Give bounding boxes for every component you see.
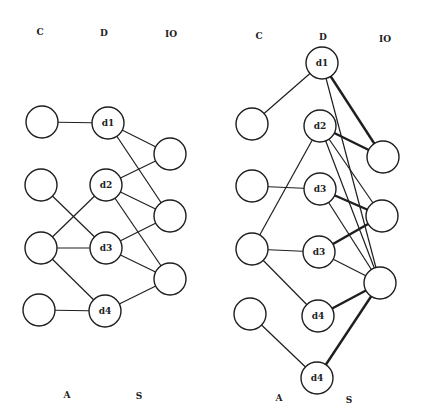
node-label: d3	[314, 184, 327, 194]
column-label-c: C	[255, 31, 262, 41]
node-io3	[154, 263, 186, 295]
node-io3	[364, 267, 396, 299]
column-label-io: IO	[379, 34, 391, 44]
node-circle	[154, 263, 186, 295]
node-c4	[23, 294, 55, 326]
node-circle	[236, 233, 268, 265]
node-c1	[236, 108, 268, 140]
node-circle	[366, 200, 398, 232]
node-c3	[25, 232, 57, 264]
bottom-label-a: A	[275, 393, 284, 403]
node-io1	[154, 138, 186, 170]
node-d2: d2	[90, 169, 122, 201]
node-circle	[364, 267, 396, 299]
node-d4: d4	[89, 295, 121, 327]
node-label: d2	[314, 121, 327, 131]
bottom-label-s: S	[136, 391, 143, 401]
node-io2	[366, 200, 398, 232]
node-d3: d3	[90, 232, 122, 264]
node-circle	[367, 141, 399, 173]
node-circle	[154, 138, 186, 170]
node-label: d4	[312, 311, 325, 321]
bottom-label-s: S	[346, 395, 353, 405]
node-circle	[236, 170, 268, 202]
node-d3a: d3	[304, 173, 336, 205]
network-diagram-right: d1d2d3d3d4d4 CDIOAS	[234, 31, 399, 405]
column-label-c: C	[36, 27, 43, 37]
diagram-canvas: d1d2d3d4 CDIOAS d1d2d3d3d4d4 CDIOAS	[0, 0, 425, 420]
network-diagram-left: d1d2d3d4 CDIOAS	[23, 27, 186, 401]
edge-layer	[39, 122, 170, 311]
node-circle	[236, 108, 268, 140]
node-d1: d1	[306, 47, 338, 79]
column-label-d: D	[319, 32, 327, 42]
node-label: d3	[313, 247, 326, 257]
node-c2	[236, 170, 268, 202]
node-d2: d2	[304, 110, 336, 142]
node-circle	[234, 298, 266, 330]
node-d3b: d3	[303, 236, 335, 268]
node-circle	[25, 232, 57, 264]
node-layer: d1d2d3d4	[23, 106, 186, 327]
node-io1	[367, 141, 399, 173]
node-label: d1	[102, 118, 115, 128]
node-label: d4	[99, 306, 112, 316]
node-c4	[234, 298, 266, 330]
node-d1: d1	[92, 107, 124, 139]
node-circle	[154, 200, 186, 232]
node-c3	[236, 233, 268, 265]
node-d4b: d4	[301, 362, 333, 394]
node-io2	[154, 200, 186, 232]
node-circle	[23, 294, 55, 326]
node-layer: d1d2d3d3d4d4	[234, 47, 399, 394]
node-label: d1	[316, 58, 329, 68]
edge-d4b-io3	[317, 283, 380, 378]
column-label-d: D	[100, 28, 108, 38]
bottom-label-a: A	[63, 390, 72, 400]
node-label: d4	[311, 373, 324, 383]
node-label: d2	[100, 180, 113, 190]
node-c1	[26, 106, 58, 138]
node-c2	[25, 169, 57, 201]
column-label-io: IO	[165, 29, 177, 39]
node-label: d3	[100, 243, 113, 253]
node-circle	[25, 169, 57, 201]
node-circle	[26, 106, 58, 138]
node-d4a: d4	[302, 300, 334, 332]
